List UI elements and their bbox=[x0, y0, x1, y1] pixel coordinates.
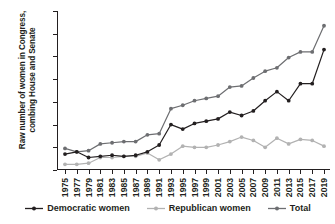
data-point bbox=[275, 136, 279, 140]
x-tick-label: 1997 bbox=[190, 178, 200, 197]
x-tick-label: 2017 bbox=[307, 178, 317, 197]
x-tick-label: 2011 bbox=[272, 178, 282, 197]
data-point bbox=[193, 122, 197, 126]
x-tick bbox=[300, 170, 301, 174]
data-point bbox=[263, 69, 267, 73]
y-axis-title: Raw number of women in Congress, combing… bbox=[18, 0, 38, 160]
data-point bbox=[322, 144, 326, 148]
data-point bbox=[263, 99, 267, 103]
x-tick-label: 1999 bbox=[201, 178, 211, 197]
data-point bbox=[310, 82, 314, 86]
data-point bbox=[216, 143, 220, 147]
data-point bbox=[63, 147, 67, 151]
data-point bbox=[87, 149, 91, 153]
data-point bbox=[240, 114, 244, 118]
x-tick-label: 2013 bbox=[284, 178, 294, 197]
data-point bbox=[216, 94, 220, 98]
data-point bbox=[299, 50, 303, 54]
data-point bbox=[322, 24, 326, 28]
data-point bbox=[228, 140, 232, 144]
x-tick bbox=[195, 170, 196, 174]
legend-item-democratic-women[interactable]: Democratic women bbox=[24, 203, 130, 213]
legend-item-total[interactable]: Total bbox=[267, 203, 311, 213]
x-tick bbox=[289, 170, 290, 174]
data-point bbox=[146, 150, 150, 154]
x-tick-label: 1993 bbox=[166, 178, 176, 197]
legend-marker-icon bbox=[146, 204, 166, 213]
data-point bbox=[181, 103, 185, 107]
x-tick bbox=[159, 170, 160, 174]
data-point bbox=[110, 153, 114, 157]
data-point bbox=[63, 152, 67, 156]
series-line bbox=[65, 137, 324, 164]
data-point bbox=[251, 109, 255, 113]
data-point bbox=[181, 127, 185, 131]
x-tick bbox=[147, 170, 148, 174]
data-point bbox=[287, 99, 291, 103]
data-point bbox=[87, 156, 91, 160]
x-tick-label: 2005 bbox=[237, 178, 247, 197]
series-line bbox=[65, 50, 324, 158]
data-point bbox=[169, 123, 173, 127]
x-tick bbox=[242, 170, 243, 174]
plot-area: 020406080100120140 197519771979198119831… bbox=[57, 11, 330, 170]
x-tick-label: 1985 bbox=[119, 178, 129, 197]
data-point bbox=[157, 143, 161, 147]
data-point bbox=[122, 140, 126, 144]
data-point bbox=[98, 154, 102, 158]
x-tick-label: 1983 bbox=[107, 178, 117, 197]
data-point bbox=[193, 99, 197, 103]
data-point bbox=[322, 48, 326, 52]
x-tick bbox=[265, 170, 266, 174]
data-point bbox=[157, 132, 161, 136]
data-point bbox=[193, 145, 197, 149]
data-point bbox=[204, 119, 208, 123]
data-point bbox=[204, 97, 208, 101]
x-tick-label: 2009 bbox=[260, 178, 270, 197]
x-tick bbox=[89, 170, 90, 174]
x-tick bbox=[253, 170, 254, 174]
x-tick bbox=[230, 170, 231, 174]
data-point bbox=[251, 76, 255, 80]
x-tick bbox=[324, 170, 325, 174]
x-tick-label: 1981 bbox=[95, 178, 105, 197]
data-point bbox=[146, 133, 150, 137]
x-tick bbox=[100, 170, 101, 174]
data-point bbox=[122, 154, 126, 158]
y-tick bbox=[53, 170, 57, 171]
legend-marker-icon bbox=[24, 204, 44, 213]
data-point bbox=[299, 82, 303, 86]
data-point bbox=[299, 137, 303, 141]
legend-item-republican-women[interactable]: Republican women bbox=[146, 203, 251, 213]
x-tick bbox=[171, 170, 172, 174]
x-tick bbox=[65, 170, 66, 174]
data-point bbox=[134, 153, 138, 157]
data-point bbox=[110, 141, 114, 145]
series-republican-women bbox=[63, 135, 326, 166]
data-point bbox=[134, 140, 138, 144]
legend-label: Republican women bbox=[169, 203, 251, 213]
data-point bbox=[75, 150, 79, 154]
data-point bbox=[310, 50, 314, 54]
x-tick-label: 1991 bbox=[154, 178, 164, 197]
x-tick bbox=[218, 170, 219, 174]
x-tick-label: 2001 bbox=[213, 178, 223, 197]
data-point bbox=[228, 85, 232, 89]
x-tick bbox=[277, 170, 278, 174]
series-total bbox=[63, 24, 326, 154]
x-tick-label: 1987 bbox=[131, 178, 141, 197]
x-tick bbox=[112, 170, 113, 174]
series-line bbox=[65, 26, 324, 152]
x-tick-label: 1989 bbox=[142, 178, 152, 197]
data-point bbox=[169, 107, 173, 111]
x-tick-label: 2015 bbox=[295, 178, 305, 197]
data-point bbox=[228, 110, 232, 114]
x-tick bbox=[124, 170, 125, 174]
data-point bbox=[275, 66, 279, 70]
x-tick-label: 1977 bbox=[72, 178, 82, 197]
legend-marker-icon bbox=[267, 204, 287, 213]
chart-legend: Democratic womenRepublican womenTotal bbox=[0, 203, 335, 213]
x-tick-label: 2019 bbox=[319, 178, 329, 197]
legend-label: Democratic women bbox=[47, 203, 130, 213]
data-point bbox=[287, 142, 291, 146]
